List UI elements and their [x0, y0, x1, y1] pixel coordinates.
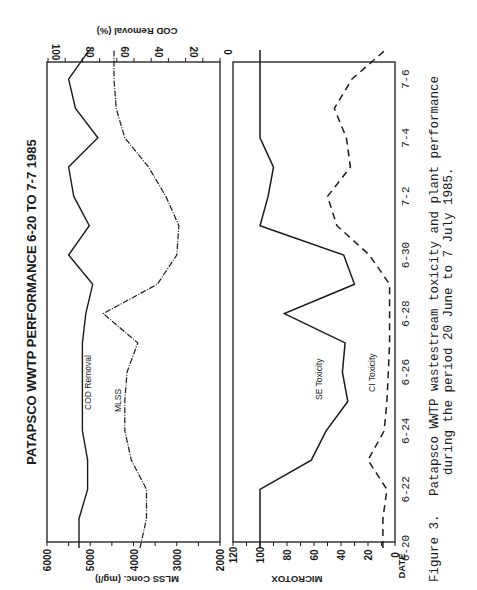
svg-text:80: 80	[282, 549, 293, 561]
se-toxicity-line	[260, 50, 355, 548]
ci-toxicity-line	[328, 50, 390, 548]
svg-text:7-4: 7-4	[400, 128, 412, 148]
svg-text:20: 20	[363, 549, 374, 561]
svg-text:100: 100	[50, 44, 61, 61]
mlss-tick-labels: 60005000400030002000	[42, 548, 226, 571]
svg-text:6-30: 6-30	[400, 242, 412, 268]
caption-figure-number: Figure 3.	[428, 514, 442, 582]
svg-text:60: 60	[309, 549, 320, 561]
svg-text:6-24: 6-24	[400, 417, 412, 444]
svg-text:7-6: 7-6	[400, 69, 412, 89]
svg-text:0: 0	[222, 49, 233, 55]
svg-text:40: 40	[336, 549, 347, 561]
date-tick-labels: 6-206-226-246-266-286-307-27-47-6	[400, 69, 412, 561]
ci-toxicity-label: CI Toxicity	[367, 353, 377, 392]
upper-panel-frame	[47, 62, 220, 542]
mlss-label: MLSS	[113, 389, 123, 412]
microtox-tick-labels: 120100806040200	[228, 546, 401, 563]
svg-text:4000: 4000	[129, 548, 140, 571]
caption-line-2: during the period 20 June to 7 July 1985…	[442, 167, 456, 475]
mlss-line	[103, 50, 179, 548]
cod-removal-line	[69, 50, 98, 548]
svg-text:40: 40	[153, 46, 164, 58]
svg-text:6000: 6000	[42, 548, 53, 571]
svg-text:100: 100	[255, 546, 266, 563]
svg-text:7-2: 7-2	[400, 186, 412, 206]
chart-title: PATAPSCO WWTP PERFORMANCE 6-20 TO 7-7 19…	[24, 139, 39, 464]
svg-text:6-28: 6-28	[400, 300, 412, 326]
svg-text:2000: 2000	[215, 548, 226, 571]
cod-tick-labels: 100806040200	[50, 44, 233, 61]
svg-text:6-20: 6-20	[400, 535, 412, 561]
microtox-axis-label: MICROTOX	[271, 574, 323, 585]
se-toxicity-label: SE Toxicity	[314, 358, 324, 400]
svg-text:6-26: 6-26	[400, 359, 412, 385]
svg-text:80: 80	[84, 46, 95, 58]
caption-line-1: Patapsco WWTP wastestream toxicity and p…	[428, 76, 442, 496]
svg-text:5000: 5000	[85, 548, 96, 571]
svg-text:20: 20	[188, 46, 199, 58]
figure: PATAPSCO WWTP PERFORMANCE 6-20 TO 7-7 19…	[0, 0, 477, 590]
svg-text:3000: 3000	[172, 548, 183, 571]
svg-text:60: 60	[119, 46, 130, 58]
svg-text:120: 120	[228, 546, 239, 563]
cod-axis-label: COD Removal (%)	[97, 26, 178, 37]
svg-text:6-22: 6-22	[400, 476, 412, 502]
cod-removal-label: COD Removal	[83, 355, 93, 410]
mlss-axis-label: MLSS Conc. (mg/l)	[95, 574, 179, 585]
